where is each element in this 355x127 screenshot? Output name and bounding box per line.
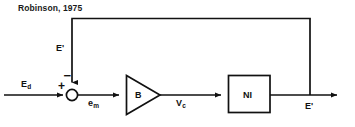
amplifier-label: B <box>135 90 142 100</box>
amplifier-triangle <box>127 76 161 115</box>
summing-junction-circle <box>66 89 77 100</box>
output-label: E' <box>305 102 313 111</box>
amplifier-output-label: Vc <box>176 99 186 108</box>
plant-label: NI <box>243 90 252 100</box>
feedback-label: E' <box>56 44 64 53</box>
figure-container: Robinson, 1975 <box>0 0 355 127</box>
input-label: Ed <box>21 80 31 89</box>
error-signal-label: em <box>88 99 99 108</box>
minus-sign-label: − <box>64 69 72 82</box>
